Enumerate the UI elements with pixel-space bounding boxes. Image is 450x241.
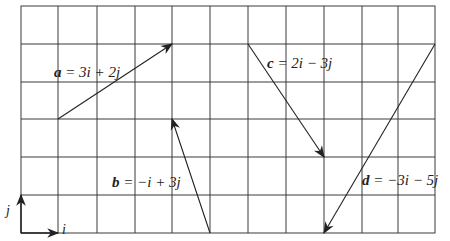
vector-d-label: d = −3i − 5j xyxy=(362,172,438,189)
vector-d-name: d xyxy=(362,172,370,188)
vector-b-expression: = −i + 3j xyxy=(120,174,181,190)
vector-a-expression: = 3i + 2j xyxy=(62,64,121,80)
vector-b-name: b xyxy=(112,174,120,190)
vector-c-expression: = 2i − 3j xyxy=(274,55,333,71)
vector-b-label: b = −i + 3j xyxy=(112,174,181,191)
vector-d-expression: = −3i − 5j xyxy=(370,172,439,188)
unit-j-label: j xyxy=(6,203,10,219)
vector-grid-diagram xyxy=(0,0,450,241)
vector-c-label: c = 2i − 3j xyxy=(267,55,332,72)
vector-a-name: a xyxy=(54,64,62,80)
grid xyxy=(21,6,435,233)
vector-d-arrow xyxy=(324,44,435,233)
vector-c-name: c xyxy=(267,55,274,71)
vector-a-label: a = 3i + 2j xyxy=(54,64,120,81)
unit-i-label: i xyxy=(62,222,66,238)
